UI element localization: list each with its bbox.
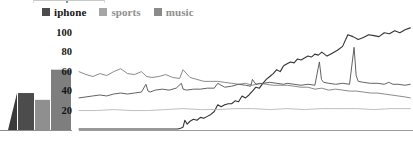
legend-label-music: music xyxy=(166,7,194,18)
line-series-iphone xyxy=(79,28,410,129)
y-tick-100: 100 xyxy=(48,28,72,39)
bar-clipped-wedge xyxy=(8,93,17,130)
legend-item-iphone[interactable]: iphone xyxy=(42,7,86,18)
line-series-baseline-flat xyxy=(79,109,410,111)
plot-area: 20406080100 20052007200920112013 Average xyxy=(0,18,413,147)
y-tick-80: 80 xyxy=(48,47,72,58)
bar-series-group xyxy=(8,70,71,130)
clipped-slider-above-legend xyxy=(33,0,105,3)
line-series-group xyxy=(79,28,410,129)
y-tick-60: 60 xyxy=(48,67,72,78)
legend-item-music[interactable]: music xyxy=(154,7,194,18)
bar-iphone xyxy=(18,93,34,130)
chart-legend: iphone sports music xyxy=(42,5,194,19)
bar-music xyxy=(51,70,71,130)
legend-label-iphone: iphone xyxy=(54,7,86,18)
legend-item-sports[interactable]: sports xyxy=(99,7,140,18)
y-tick-40: 40 xyxy=(48,86,72,97)
square-swatch-icon xyxy=(99,8,107,16)
square-swatch-icon xyxy=(42,8,50,16)
line-series-music xyxy=(79,47,410,98)
figure-sparkline-trends: iphone sports music 20406080100 20052007… xyxy=(0,0,413,147)
square-swatch-icon xyxy=(154,8,162,16)
y-tick-20: 20 xyxy=(48,106,72,117)
legend-label-sports: sports xyxy=(111,7,140,18)
slider-handle-icon xyxy=(66,1,68,3)
